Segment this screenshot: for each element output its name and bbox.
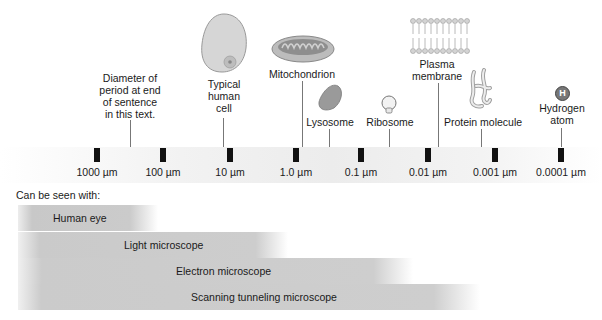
scale-tick	[358, 148, 364, 162]
instrument-label: Light microscope	[124, 239, 203, 251]
lysosome-icon	[316, 84, 344, 112]
scale-tick	[94, 148, 100, 162]
tick-label: 10 µm	[195, 166, 265, 178]
tick-label: 1.0 µm	[261, 166, 331, 178]
ribosome-icon	[380, 95, 398, 115]
tick-label: 0.0001 µm	[526, 166, 596, 178]
plasma-membrane-label: Plasma membrane	[405, 58, 469, 82]
scale-tick	[425, 148, 431, 162]
instrument-bar-light-microscope: Light microscope	[18, 232, 288, 258]
scale-tick	[160, 148, 166, 162]
human-cell-label: Typical human cell	[200, 78, 248, 114]
tick-label: 0.01 µm	[393, 166, 463, 178]
tick-label: 0.001 µm	[460, 166, 530, 178]
leader-line	[438, 83, 439, 147]
instrument-bar-scanning-tunneling-microscope: Scanning tunneling microscope	[18, 284, 480, 310]
hydrogen-atom-label: Hydrogen atom	[534, 102, 590, 126]
instrument-label: Electron microscope	[176, 265, 271, 277]
scale-tick	[293, 148, 299, 162]
mitochondrion-icon	[270, 34, 336, 64]
scale-tick	[558, 148, 564, 162]
tick-label: 0.1 µm	[326, 166, 396, 178]
instrument-label: Human eye	[53, 212, 107, 224]
leader-line	[302, 81, 303, 147]
seen-with-heading: Can be seen with:	[16, 189, 100, 201]
leader-line	[329, 129, 330, 147]
tick-label: 1000 µm	[62, 166, 132, 178]
plasma-membrane-icon	[410, 18, 472, 54]
leader-line	[223, 118, 224, 147]
instrument-label: Scanning tunneling microscope	[191, 291, 337, 303]
protein-molecule-icon	[466, 68, 494, 112]
hydrogen-atom-icon: H	[555, 86, 570, 101]
tick-label: 100 µm	[128, 166, 198, 178]
human-cell-icon	[198, 12, 250, 74]
instrument-bar-electron-microscope: Electron microscope	[18, 258, 413, 284]
scale-tick	[492, 148, 498, 162]
period-label: Diameter of period at end of sentence in…	[90, 72, 170, 120]
leader-line	[130, 120, 131, 147]
leader-line	[389, 129, 390, 147]
leader-line	[561, 128, 562, 147]
scale-tick	[227, 148, 233, 162]
mitochondrion-label: Mitochondrion	[266, 68, 338, 80]
leader-line	[481, 129, 482, 147]
instrument-bar-human-eye: Human eye	[18, 205, 158, 231]
ribosome-label: Ribosome	[364, 116, 416, 128]
lysosome-label: Lysosome	[302, 116, 358, 128]
protein-molecule-label: Protein molecule	[440, 116, 526, 128]
